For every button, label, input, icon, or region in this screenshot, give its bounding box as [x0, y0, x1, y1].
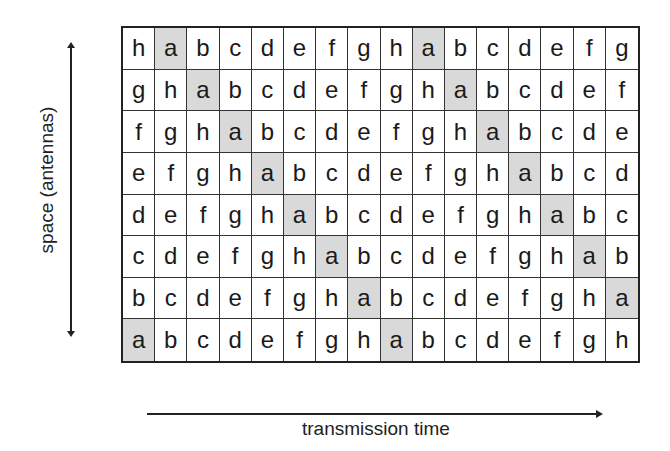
grid-cell: a — [220, 111, 252, 153]
grid-cell: b — [574, 195, 606, 237]
grid-cell: d — [316, 111, 348, 153]
grid-cell: c — [348, 195, 380, 237]
grid-cell: a — [284, 195, 316, 237]
grid-cell: b — [477, 70, 509, 112]
grid-cell: c — [284, 111, 316, 153]
grid-cell: e — [220, 278, 252, 320]
grid-cell: b — [606, 236, 638, 278]
grid-cell: d — [541, 70, 573, 112]
grid-cell: g — [445, 153, 477, 195]
grid-cell: b — [413, 319, 445, 361]
grid-cell: b — [284, 153, 316, 195]
grid-cell: g — [574, 319, 606, 361]
grid-cell: c — [381, 236, 413, 278]
grid-cell: d — [606, 153, 638, 195]
grid-cell: b — [445, 28, 477, 70]
grid-cell: h — [316, 278, 348, 320]
grid-cell: e — [252, 319, 284, 361]
grid-cell: g — [541, 278, 573, 320]
space-axis-line — [70, 46, 72, 333]
grid-cell: f — [477, 236, 509, 278]
time-axis-line — [147, 413, 597, 415]
grid-cell: c — [606, 195, 638, 237]
grid-cell: a — [252, 153, 284, 195]
grid-cell: f — [187, 195, 219, 237]
grid-cell: h — [187, 111, 219, 153]
grid-cell: f — [284, 319, 316, 361]
grid-cell: c — [155, 278, 187, 320]
grid-cell: d — [123, 195, 155, 237]
grid-cell: h — [477, 153, 509, 195]
grid-cell: e — [187, 236, 219, 278]
grid-cell: d — [445, 278, 477, 320]
grid-cell: f — [606, 70, 638, 112]
grid-cell: c — [220, 28, 252, 70]
grid-cell: g — [187, 153, 219, 195]
grid-cell: h — [574, 278, 606, 320]
grid-cell: d — [574, 111, 606, 153]
grid-cell: e — [606, 111, 638, 153]
grid-cell: a — [477, 111, 509, 153]
arrow-down-icon — [67, 331, 75, 337]
grid-cell: b — [123, 278, 155, 320]
grid-cell: d — [413, 236, 445, 278]
grid-cell: a — [541, 195, 573, 237]
grid-cell: d — [187, 278, 219, 320]
grid-cell: b — [155, 319, 187, 361]
grid-cell: e — [509, 319, 541, 361]
grid-cell: f — [123, 111, 155, 153]
grid-cell: g — [413, 111, 445, 153]
grid-cell: c — [541, 111, 573, 153]
grid-cell: a — [574, 236, 606, 278]
grid-cell: f — [316, 28, 348, 70]
grid-cell: h — [155, 70, 187, 112]
grid-cell: c — [316, 153, 348, 195]
grid-cell: d — [509, 28, 541, 70]
grid-cell: g — [477, 195, 509, 237]
grid-cell: f — [252, 278, 284, 320]
grid-cell: c — [252, 70, 284, 112]
grid-cell: h — [284, 236, 316, 278]
time-axis-arrow — [147, 410, 603, 418]
grid-cell: g — [509, 236, 541, 278]
time-axis-label: transmission time — [302, 418, 450, 440]
grid-cell: a — [187, 70, 219, 112]
grid-cell: f — [541, 319, 573, 361]
grid-cell: e — [155, 195, 187, 237]
space-axis-arrow — [70, 42, 72, 337]
grid-cell: g — [155, 111, 187, 153]
grid-cell: g — [220, 195, 252, 237]
grid-cell: f — [348, 70, 380, 112]
grid-cell: e — [541, 28, 573, 70]
grid-cell: a — [381, 319, 413, 361]
grid-cell: g — [123, 70, 155, 112]
grid-cell: h — [381, 28, 413, 70]
grid-cell: h — [348, 319, 380, 361]
grid-cell: a — [123, 319, 155, 361]
grid-cell: f — [155, 153, 187, 195]
grid-cell: c — [123, 236, 155, 278]
grid-cell: g — [316, 319, 348, 361]
grid-cell: c — [477, 28, 509, 70]
grid-cell: d — [381, 195, 413, 237]
grid-cell: d — [252, 28, 284, 70]
grid-cell: g — [348, 28, 380, 70]
grid-cell: g — [252, 236, 284, 278]
grid-cell: h — [252, 195, 284, 237]
grid-cell: b — [316, 195, 348, 237]
grid-cell: f — [574, 28, 606, 70]
grid-cell: e — [123, 153, 155, 195]
grid-cell: c — [413, 278, 445, 320]
grid-cell: d — [220, 319, 252, 361]
grid-cell: g — [606, 28, 638, 70]
grid-cell: e — [477, 278, 509, 320]
grid-cell: c — [509, 70, 541, 112]
codeword-grid: habcdefghabcdefgghabcdefghabcdeffghabcde… — [121, 26, 640, 363]
grid-cell: d — [477, 319, 509, 361]
grid-cell: g — [381, 70, 413, 112]
grid-cell: d — [284, 70, 316, 112]
grid-cell: a — [606, 278, 638, 320]
grid-cell: h — [445, 111, 477, 153]
grid-cell: h — [606, 319, 638, 361]
grid-cell: a — [316, 236, 348, 278]
